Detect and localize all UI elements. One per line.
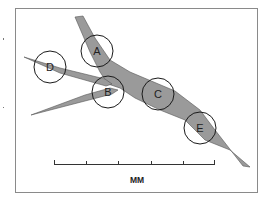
diagram-canvas: A B C D E MM <box>0 0 271 202</box>
region-c-label: C <box>154 88 162 100</box>
scale-bar: MM <box>54 160 215 185</box>
scale-bar-unit-label: MM <box>130 175 144 185</box>
region-d-label: D <box>46 61 54 73</box>
stray-mark <box>3 107 4 108</box>
stray-mark <box>3 38 4 40</box>
region-b-label: B <box>104 86 111 98</box>
region-d: D <box>34 51 66 83</box>
region-e-label: E <box>196 122 203 134</box>
region-a-label: A <box>93 45 101 57</box>
